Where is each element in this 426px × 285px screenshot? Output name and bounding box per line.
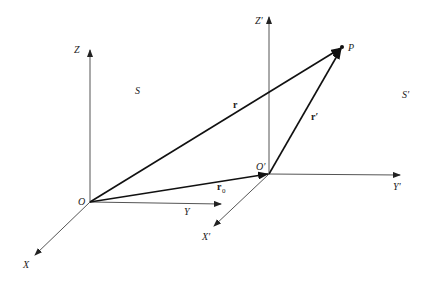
vector-r0-subscript: 0 — [222, 187, 226, 195]
reference-frames-diagram: Z S O Y X Z′ S′ O′ Y′ X′ P r r′ r 0 — [0, 0, 426, 285]
y-axis — [90, 202, 221, 204]
y-prime-label: Y′ — [393, 181, 402, 192]
frame-s-prime-axes — [214, 17, 400, 226]
x-axis — [35, 202, 90, 255]
x-prime-label: X′ — [201, 231, 211, 242]
vector-r — [90, 48, 341, 202]
origin-o-prime-label: O′ — [256, 161, 266, 172]
origin-o-label: O — [78, 196, 85, 207]
vector-r-prime — [269, 49, 341, 174]
z-prime-label: Z′ — [255, 15, 264, 26]
vector-r-label: r — [233, 99, 238, 110]
x-label: X — [22, 259, 30, 270]
frame-s-prime-label: S′ — [402, 89, 410, 100]
point-p-label: P — [347, 42, 354, 53]
vector-r-prime-label: r′ — [311, 111, 318, 122]
frame-s-axes — [35, 50, 221, 255]
position-vectors — [90, 45, 344, 202]
point-p — [340, 45, 344, 49]
z-label: Z — [74, 44, 80, 55]
vector-r0 — [90, 174, 268, 202]
y-prime-axis — [269, 174, 400, 175]
y-label: Y — [184, 206, 191, 217]
frame-s-label: S — [135, 85, 140, 96]
